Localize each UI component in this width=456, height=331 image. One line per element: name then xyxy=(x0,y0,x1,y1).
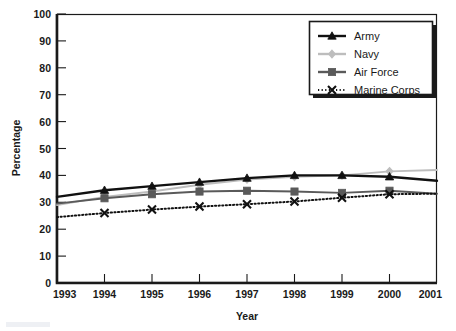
marker-square xyxy=(328,68,335,75)
y-tick-label: 50 xyxy=(39,143,51,155)
y-axis-title: Percentage xyxy=(10,120,22,177)
legend-label: Marine Corps xyxy=(354,84,421,96)
y-tick-label: 20 xyxy=(39,223,51,235)
y-tick-label: 80 xyxy=(39,62,51,74)
y-tick-label: 90 xyxy=(39,35,51,47)
x-tick-label: 2000 xyxy=(378,288,402,300)
chart-container: 0102030405060708090100 19931994199519961… xyxy=(0,0,456,331)
x-tick-label: 1994 xyxy=(93,288,117,300)
x-tick-label: 1996 xyxy=(188,288,212,300)
scan-artifact xyxy=(6,322,50,327)
marker-square xyxy=(101,195,108,202)
x-tick-label: 2001 xyxy=(419,288,443,300)
x-tick-label: 1999 xyxy=(330,288,354,300)
marker-square xyxy=(196,188,203,195)
y-tick-label: 0 xyxy=(45,277,51,289)
y-tick-label: 40 xyxy=(39,169,51,181)
x-tick-label: 1998 xyxy=(283,288,307,300)
x-axis-title: Year xyxy=(236,310,258,322)
y-tick-label: 60 xyxy=(39,116,51,128)
marker-square xyxy=(148,191,155,198)
x-tick-label: 1997 xyxy=(235,288,259,300)
y-tick-label: 30 xyxy=(39,196,51,208)
x-tick-label: 1995 xyxy=(140,288,164,300)
legend: ArmyNavyAir ForceMarine Corps xyxy=(310,22,437,99)
line-chart: 0102030405060708090100 19931994199519961… xyxy=(0,0,456,331)
y-tick-label: 100 xyxy=(33,8,51,20)
marker-square xyxy=(291,188,298,195)
y-tick-label: 10 xyxy=(39,250,51,262)
legend-label: Army xyxy=(354,30,380,42)
legend-label: Navy xyxy=(354,48,380,60)
marker-square xyxy=(243,187,250,194)
legend-label: Air Force xyxy=(354,66,399,78)
x-tick-label: 1993 xyxy=(53,288,77,300)
y-tick-label: 70 xyxy=(39,89,51,101)
x-axis-tick-labels: 199319941995199619971998199920002001 xyxy=(53,288,442,300)
